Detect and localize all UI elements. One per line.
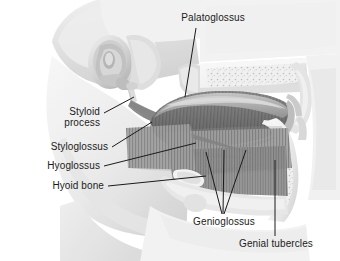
label-styloid-process-line1: Styloid [14,106,100,118]
label-genioglossus: Genioglossus [178,216,270,228]
label-genial-tubercles: Genial tubercles [222,238,330,250]
label-palatoglossus: Palatoglossus [168,12,258,24]
anatomy-illustration [0,0,340,261]
label-hyoid-bone: Hyoid bone [8,180,104,192]
label-hyoglossus: Hyoglossus [8,160,100,172]
label-styloglossus: Styloglossus [8,141,108,153]
label-styloid-process-line2: process [14,117,100,129]
anatomy-figure: Palatoglossus Styloid process Stylogloss… [0,0,340,261]
